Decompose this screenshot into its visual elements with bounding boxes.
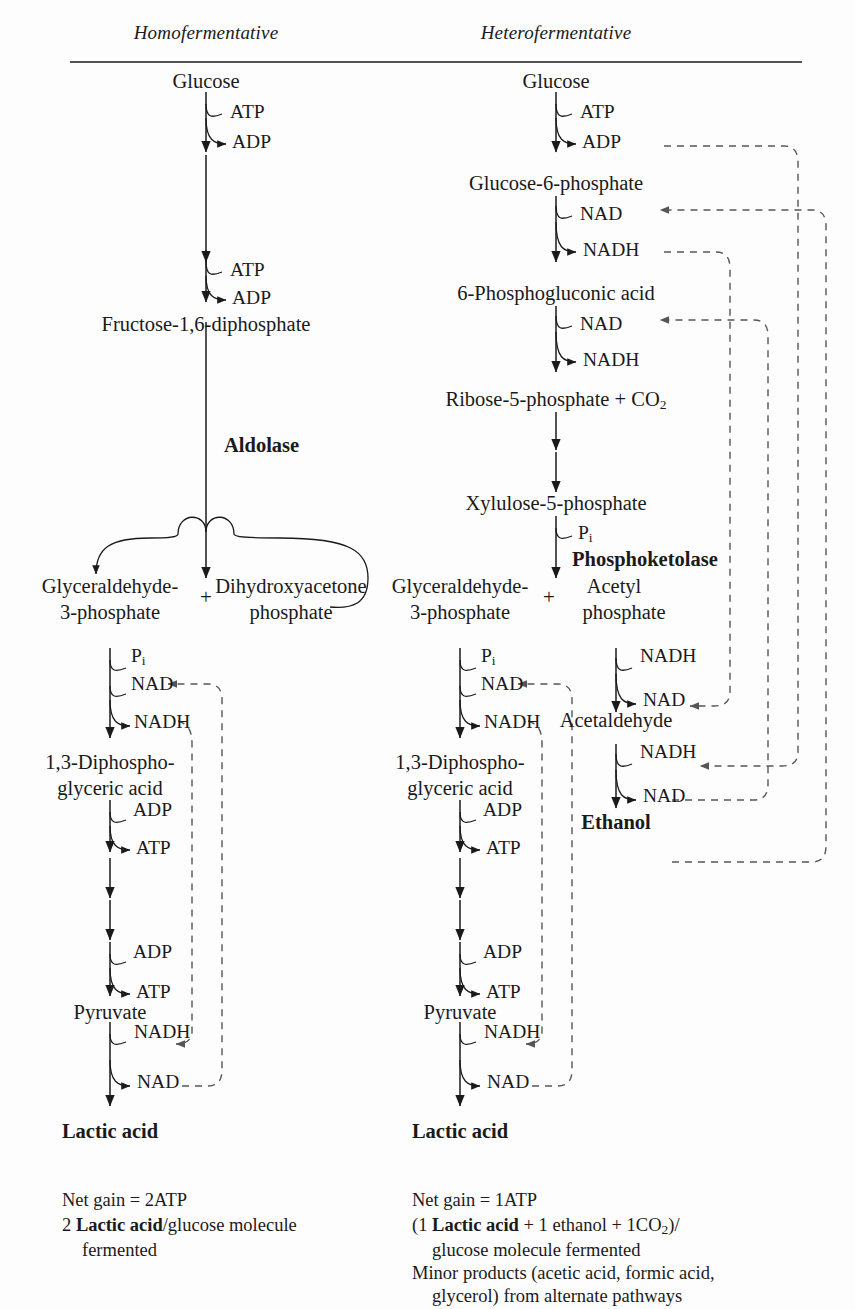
cofactor-atp-in-1-left: ATP [230,101,265,123]
metabolite-13-diphosphoglyceric-acid-left-line1: 1,3-Diphospho- [45,751,174,774]
dashed-loop-right-inner [526,721,542,1044]
cofactor-nadh-out-3-right: NADH [484,711,540,733]
cofactor-nad-in-2-right: NAD [580,313,622,335]
metabolite-acetaldehyde: Acetaldehyde [560,709,673,732]
summary-right-line4: Minor products (acetic acid, formic acid… [412,1261,715,1286]
cofactor-nadh-out-1-right: NADH [583,239,639,261]
cofactor-nadh-in-left: NADH [134,1021,190,1043]
metabolite-xylulose-5-phosphate: Xylulose-5-phosphate [465,492,646,515]
metabolite-6-phosphogluconic-acid: 6-Phosphogluconic acid [457,282,655,305]
metabolite-glyceraldehyde-3-phosphate-right-line1: Glyceraldehyde- [392,575,529,598]
cofactor-nad-out-acetaldehyde: NAD [643,785,685,807]
metabolite-dihydroxyacetone-line2: phosphate [249,601,332,624]
cofactor-adp-in-4-left: ADP [133,941,172,963]
plus-sign-right: + [543,586,555,610]
summary-right-line1: Net gain = 1ATP [412,1188,537,1213]
cofactor-atp-out-4-left: ATP [136,981,171,1003]
cofactor-nad-out-4-right: NAD [487,1071,529,1093]
summary-right-line5: glycerol) from alternate pathways [432,1284,682,1309]
cofactor-nad-out-left: NAD [137,1071,179,1093]
cofactor-atp-out-2-right: ATP [486,837,521,859]
cofactor-adp-in-2-right: ADP [483,799,522,821]
metabolite-13-diphosphoglyceric-acid-left-line2: glyceric acid [57,777,162,800]
metabolite-13-diphosphoglyceric-acid-right-line2: glyceric acid [407,777,512,800]
dashed-loop-nadh-acetaldehyde [664,146,798,766]
cofactor-adp-in-3-right: ADP [483,941,522,963]
metabolite-dihydroxyacetone-line1: Dihydroxyacetone [215,575,366,598]
metabolite-glucose-right: Glucose [522,70,589,93]
cofactor-nad-in-left: NAD [131,673,173,695]
metabolite-glucose-left: Glucose [172,70,239,93]
cofactor-nadh-out-left: NADH [134,711,190,733]
metabolite-glucose-6-phosphate: Glucose-6-phosphate [469,172,643,195]
dashed-loop-nad-g6p [660,210,826,862]
metabolite-glyceraldehyde-3-phosphate-right-line2: 3-phosphate [410,601,510,624]
enzyme-phosphoketolase: Phosphoketolase [572,548,718,571]
cofactor-nadh-in-acetaldehyde: NADH [640,741,696,763]
metabolite-acetyl-phosphate-line1: Acetyl [587,575,642,598]
dashed-loop-nadh-acetylp [664,252,730,706]
metabolite-lactic-acid-right: Lactic acid [412,1120,508,1143]
summary-right-line2: (1 Lactic acid + 1 ethanol + 1CO2)/ [412,1213,680,1239]
dashed-loop-left-inner [176,721,192,1044]
cofactor-adp-out-1-right: ADP [582,131,621,153]
column-header-homofermentative: Homofermentative [134,22,279,43]
enzyme-aldolase: Aldolase [224,434,299,457]
cofactor-nadh-out-2-right: NADH [583,349,639,371]
metabolite-glyceraldehyde-3-phosphate-left-line2: 3-phosphate [60,601,160,624]
cofactor-atp-out-3-right: ATP [486,981,521,1003]
plus-sign-left: + [200,586,212,610]
cofactor-pi-left: Pi [131,645,146,668]
cofactor-nadh-in-acetylp: NADH [640,645,696,667]
summary-right-line3: glucose molecule fermented [432,1238,641,1263]
cofactor-adp-in-3-left: ADP [133,799,172,821]
cofactor-nadh-in-4-right: NADH [484,1021,540,1043]
cofactor-nad-out-acetylp: NAD [643,689,685,711]
summary-left-line1: Net gain = 2ATP [62,1188,187,1213]
column-header-heterofermentative: Heterofermentative [481,22,632,43]
cofactor-atp-in-2-left: ATP [230,259,265,281]
metabolite-glyceraldehyde-3-phosphate-left-line1: Glyceraldehyde- [42,575,179,598]
summary-left-line2: 2 Lactic acid/glucose molecule [62,1213,297,1238]
cofactor-nad-in-3-right: NAD [481,673,523,695]
metabolite-ribose-5-phosphate-co2: Ribose-5-phosphate + CO2 [445,388,666,412]
metabolite-lactic-acid-left: Lactic acid [62,1120,158,1143]
cofactor-adp-out-1-left: ADP [232,131,271,153]
cofactor-atp-in-1-right: ATP [580,101,615,123]
cofactor-pi-xylulose: Pi [578,522,593,545]
cofactor-nad-in-1-right: NAD [580,203,622,225]
summary-left-line3: fermented [82,1238,157,1263]
metabolite-fructose-16-diphosphate: Fructose-1,6-diphosphate [102,313,311,336]
cofactor-pi-right-g3p: Pi [481,645,496,668]
cofactor-adp-out-2-left: ADP [232,287,271,309]
metabolite-acetyl-phosphate-line2: phosphate [582,601,665,624]
metabolite-ethanol: Ethanol [581,811,651,834]
cofactor-atp-out-3-left: ATP [136,837,171,859]
metabolite-13-diphosphoglyceric-acid-right-line1: 1,3-Diphospho- [395,751,524,774]
